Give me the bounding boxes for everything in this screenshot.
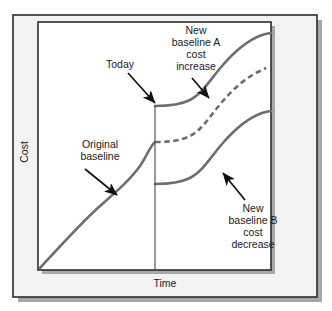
annotation-new-baseline-b-line1: New xyxy=(242,202,263,214)
annotation-new-baseline-a-line1: New xyxy=(185,24,206,36)
x-axis-label: Time xyxy=(154,277,177,289)
annotation-new-baseline-b-line3: cost xyxy=(243,226,262,238)
annotation-new-baseline-a-line2: baseline A xyxy=(172,36,220,48)
y-axis-label: Cost xyxy=(18,141,30,163)
annotation-new-baseline-a-line3: cost xyxy=(186,48,205,60)
annotation-new-baseline-b-line4: decrease xyxy=(231,238,274,250)
annotation-original-baseline-line2: baseline xyxy=(80,150,119,162)
annotation-new-baseline-a-line4: increase xyxy=(176,60,216,72)
cost-baseline-chart: Today New baseline A cost increase Origi… xyxy=(0,0,332,311)
annotation-new-baseline-b-line2: baseline B xyxy=(228,214,277,226)
annotation-today-label: Today xyxy=(106,58,135,70)
annotation-original-baseline-line1: Original xyxy=(82,138,118,150)
